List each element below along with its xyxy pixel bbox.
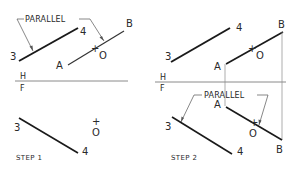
descriptive-geometry-diagram: 3 4 A B + O PARALLEL H F 3 4 + O STEP 1 … [0,0,298,171]
step1-front-line-34 [19,118,78,153]
step2-label-F: F [160,84,165,93]
step2-top-label-A: A [214,61,221,72]
step1-arrowhead-left [30,46,34,52]
step2-parallel-leader-left [181,95,202,122]
step2-front-label-B: B [276,144,283,155]
step2-panel: 3 4 A B + O H F PARALLEL A B 3 4 + O STE… [155,19,286,162]
step2-front-label-3: 3 [165,121,171,132]
step1-caption: STEP 1 [16,154,42,162]
step1-parallel-label: PARALLEL [25,15,66,24]
step2-front-label-A: A [214,99,221,110]
step2-front-label-4: 4 [237,146,243,157]
step2-top-label-B: B [278,19,285,30]
step2-top-label-4: 4 [236,22,242,33]
step1-arrowhead-right [100,36,105,41]
step1-top-label-4: 4 [80,26,86,37]
step2-top-label-3: 3 [165,51,171,62]
step2-top-label-O: O [256,50,264,61]
step2-front-label-O: O [249,128,257,139]
step2-label-H: H [160,73,166,82]
step1-top-label-3: 3 [10,51,16,62]
step1-front-label-3: 3 [14,122,20,133]
step2-front-line-34 [172,117,232,154]
step2-caption: STEP 2 [171,154,197,162]
step2-front-plus: + [250,117,258,128]
step1-top-label-O: O [99,50,107,61]
step1-label-F: F [20,84,25,93]
step1-label-H: H [20,72,26,81]
step1-top-label-B: B [126,18,133,29]
step1-front-label-O: O [92,127,100,138]
step1-top-label-A: A [56,60,63,71]
step1-panel: 3 4 A B + O PARALLEL H F 3 4 + O STEP 1 [10,15,133,162]
step1-top-line-34 [19,28,78,61]
step2-arrowhead-right [259,120,262,126]
step1-front-plus: + [92,116,100,127]
step1-front-label-4: 4 [82,146,88,157]
step2-top-line-34 [171,28,230,62]
step2-parallel-label: PARALLEL [204,91,245,100]
